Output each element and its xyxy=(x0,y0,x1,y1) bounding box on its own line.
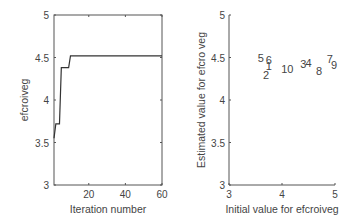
x-axis-label: Initial value for efcroiveg xyxy=(225,203,338,215)
y-tick-label: 3.5 xyxy=(211,138,225,149)
point-label: 8 xyxy=(316,65,322,77)
chart-figure: 33.544.55204060Iteration numberefcroiveg… xyxy=(0,0,361,224)
y-tick-label: 3 xyxy=(219,180,225,191)
y-axis-label: efcroiveg xyxy=(18,79,30,122)
y-axis-label: Estimated value for efcro veg xyxy=(195,32,207,168)
point-label: 5 xyxy=(258,52,264,64)
point-label: 2 xyxy=(263,69,269,81)
y-tick-label: 5 xyxy=(219,10,225,21)
x-tick-label: 5 xyxy=(332,189,338,200)
y-tick-label: 5 xyxy=(43,10,49,21)
x-tick-label: 3 xyxy=(226,189,232,200)
y-tick-label: 4 xyxy=(43,95,49,106)
x-tick-label: 60 xyxy=(156,189,168,200)
y-tick-label: 3 xyxy=(43,180,49,191)
x-tick-label: 4 xyxy=(279,189,285,200)
x-tick-label: 20 xyxy=(83,189,95,200)
y-tick-label: 4 xyxy=(219,95,225,106)
y-tick-label: 4.5 xyxy=(211,53,225,64)
y-tick-label: 3.5 xyxy=(35,138,49,149)
point-label: 9 xyxy=(331,59,337,71)
plot-frame xyxy=(54,15,162,185)
x-axis-label: Iteration number xyxy=(70,203,147,215)
series-line xyxy=(54,56,162,138)
y-tick-label: 4.5 xyxy=(35,53,49,64)
x-tick-label: 40 xyxy=(120,189,132,200)
point-label: 10 xyxy=(281,63,293,75)
point-label: 4 xyxy=(305,57,311,69)
